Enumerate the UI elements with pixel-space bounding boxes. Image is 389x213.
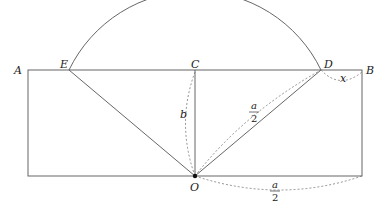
dimension-b — [186, 72, 196, 176]
label-c: C — [191, 58, 200, 71]
dimension-half-a — [195, 176, 362, 190]
fraction-half-a-bottom: a 2 — [270, 179, 280, 203]
label-x: x — [340, 72, 347, 85]
svg-text:a: a — [272, 179, 278, 190]
label-b: B — [365, 64, 374, 77]
svg-text:2: 2 — [251, 113, 257, 124]
label-d: D — [323, 58, 333, 71]
label-b-length: b — [180, 108, 187, 121]
point-o-marker — [193, 174, 197, 178]
fraction-half-a-diagonal: a 2 — [249, 100, 259, 124]
label-a: A — [13, 64, 22, 77]
svg-text:2: 2 — [272, 192, 278, 203]
segment-od — [195, 70, 321, 176]
segment-oe — [69, 70, 195, 176]
label-e: E — [59, 58, 68, 71]
label-o: O — [190, 181, 199, 194]
svg-text:a: a — [251, 100, 257, 111]
geometry-diagram: A E C D B O b x a 2 a 2 — [0, 0, 389, 213]
